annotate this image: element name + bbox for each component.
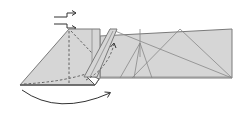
curved-swing-arrow-icon [22, 90, 111, 104]
long-strip [100, 29, 232, 78]
origami-diagram [0, 0, 243, 116]
push-arrows-icon [54, 11, 76, 31]
